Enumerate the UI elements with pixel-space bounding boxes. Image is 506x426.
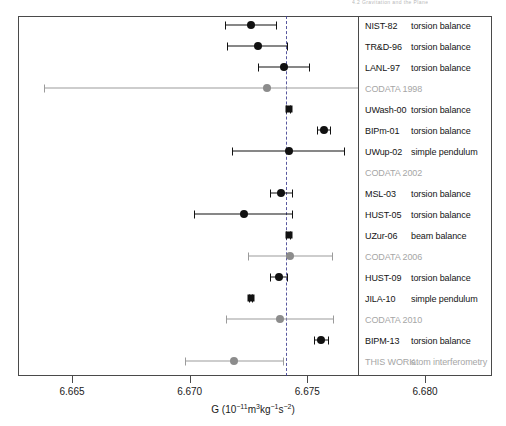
x-axis-tick-label: 6.665: [59, 386, 84, 397]
error-bar-cap: [270, 273, 271, 281]
legend-box: NIST-82torsion balanceTR&D-96torsion bal…: [358, 16, 492, 376]
legend-row-bipm-13[interactable]: BIPM-13torsion balance: [359, 331, 493, 352]
error-bar-cap: [185, 357, 186, 365]
legend-experiment-label: THIS WORK: [359, 357, 411, 367]
legend-row-codata-2002[interactable]: CODATA 2002: [359, 163, 493, 184]
error-bar-cap: [333, 315, 334, 323]
legend-row-codata-2010[interactable]: CODATA 2010: [359, 310, 493, 331]
data-point-marker: [275, 273, 283, 281]
legend-row-hust-09[interactable]: HUST-09torsion balance: [359, 268, 493, 289]
legend-row-lanl-97[interactable]: LANL-97torsion balance: [359, 58, 493, 79]
data-point-marker: [285, 232, 292, 239]
data-point-marker: [263, 84, 271, 92]
legend-experiment-label: CODATA 1998: [359, 84, 411, 94]
legend-method-label: torsion balance: [411, 105, 471, 115]
legend-experiment-label: LANL-97: [359, 63, 411, 73]
legend-experiment-label: CODATA 2002: [359, 168, 411, 178]
x-axis-tick-label: 6.675: [295, 386, 320, 397]
legend-row-msl-03[interactable]: MSL-03torsion balance: [359, 184, 493, 205]
error-bar-cap: [283, 357, 284, 365]
error-bar-cap: [258, 63, 259, 71]
legend-row-nist-82[interactable]: NIST-82torsion balance: [359, 16, 493, 37]
legend-experiment-label: CODATA 2006: [359, 252, 411, 262]
legend-method-label: simple pendulum: [411, 294, 478, 304]
x-axis-tick: [307, 376, 308, 383]
legend-method-label: beam balance: [411, 231, 466, 241]
error-bar-cap: [270, 189, 271, 197]
x-axis-title-symbol: G: [211, 404, 219, 415]
legend-method-label: torsion balance: [411, 210, 471, 220]
legend-method-label: torsion balance: [411, 273, 471, 283]
g-measurements-forest-plot: 4.2 Gravitation and the Plane NIST-82tor…: [0, 0, 506, 426]
legend-row-jila-10[interactable]: JILA-10simple pendulum: [359, 289, 493, 310]
legend-method-label: simple pendulum: [411, 147, 478, 157]
legend-row-this-work[interactable]: THIS WORKatom interferometry: [359, 352, 493, 373]
legend-experiment-label: BIPm-01: [359, 126, 411, 136]
legend-experiment-label: CODATA 2010: [359, 315, 411, 325]
legend-method-label: torsion balance: [411, 42, 471, 52]
error-bar-cap: [227, 42, 228, 50]
legend-method-label: torsion balance: [411, 21, 471, 31]
legend-experiment-label: JILA-10: [359, 294, 411, 304]
legend-method-label: torsion balance: [411, 63, 471, 73]
legend-row-uwup-02[interactable]: UWup-02simple pendulum: [359, 142, 493, 163]
legend-method-label: atom interferometry: [411, 357, 487, 367]
data-point-marker: [230, 357, 238, 365]
data-point-marker: [280, 63, 288, 71]
error-bar-cap: [309, 63, 310, 71]
error-bar-cap: [287, 273, 288, 281]
data-point-marker: [276, 315, 284, 323]
error-bar-cap: [248, 252, 249, 260]
error-bar-cap: [226, 315, 227, 323]
legend-method-label: torsion balance: [411, 336, 471, 346]
x-axis-title-units: (10−11m3kg−1s−2): [219, 404, 295, 415]
data-point-marker: [320, 126, 328, 134]
legend-experiment-label: BIPM-13: [359, 336, 411, 346]
legend-row-tr-d-96[interactable]: TR&D-96torsion balance: [359, 37, 493, 58]
data-point-marker: [254, 42, 262, 50]
error-bar-cap: [317, 126, 318, 134]
x-axis-tick-label: 6.680: [412, 386, 437, 397]
x-axis-tick: [72, 376, 73, 383]
legend-row-bipm-01[interactable]: BIPm-01torsion balance: [359, 121, 493, 142]
legend-experiment-label: HUST-09: [359, 273, 411, 283]
error-bar-cap: [225, 21, 226, 29]
x-axis-tick: [190, 376, 191, 383]
error-bar-cap: [194, 210, 195, 218]
data-point-marker: [285, 147, 293, 155]
legend-row-uzur-06[interactable]: UZur-06beam balance: [359, 226, 493, 247]
error-bar-cap: [328, 336, 329, 344]
error-bar-cap: [44, 84, 45, 92]
data-point-marker: [277, 189, 285, 197]
legend-row-codata-1998[interactable]: CODATA 1998: [359, 79, 493, 100]
error-bar-cap: [344, 147, 345, 155]
legend-experiment-label: MSL-03: [359, 189, 411, 199]
legend-experiment-label: HUST-05: [359, 210, 411, 220]
error-bar-cap: [287, 42, 288, 50]
legend-experiment-label: UZur-06: [359, 231, 411, 241]
legend-experiment-label: UWash-00: [359, 105, 411, 115]
error-bar-cap: [276, 21, 277, 29]
legend-experiment-label: TR&D-96: [359, 42, 411, 52]
data-point-marker: [247, 21, 255, 29]
error-bar-cap: [330, 126, 331, 134]
data-point-marker: [317, 336, 325, 344]
legend-experiment-label: UWup-02: [359, 147, 411, 157]
legend-row-codata-2006[interactable]: CODATA 2006: [359, 247, 493, 268]
error-bar-cap: [332, 252, 333, 260]
error-bar-cap: [292, 189, 293, 197]
data-point-marker: [286, 252, 294, 260]
x-axis-tick-label: 6.670: [177, 386, 202, 397]
legend-experiment-label: NIST-82: [359, 21, 411, 31]
x-axis-tick: [425, 376, 426, 383]
data-point-marker: [285, 106, 292, 113]
x-axis-title: G (10−11m3kg−1s−2): [0, 403, 506, 415]
data-point-marker: [240, 210, 248, 218]
data-point-marker: [247, 295, 254, 302]
legend-method-label: torsion balance: [411, 126, 471, 136]
error-bar-cap: [314, 336, 315, 344]
legend-row-hust-05[interactable]: HUST-05torsion balance: [359, 205, 493, 226]
legend-row-uwash-00[interactable]: UWash-00torsion balance: [359, 100, 493, 121]
legend-method-label: torsion balance: [411, 189, 471, 199]
error-bar-cap: [232, 147, 233, 155]
